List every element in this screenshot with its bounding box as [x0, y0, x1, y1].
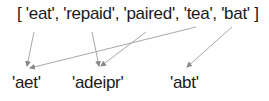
- group-key-aet: 'aet': [12, 73, 41, 93]
- arrow-tea-to-aet: [30, 27, 196, 68]
- arrow-eat-to-aet: [27, 32, 34, 66]
- arrow-bat-to-abt: [187, 27, 232, 67]
- group-key-adeipr: 'adeipr': [72, 73, 123, 93]
- arrow-repaid-to-adeipr: [92, 32, 99, 66]
- group-key-abt: 'abt': [170, 73, 199, 93]
